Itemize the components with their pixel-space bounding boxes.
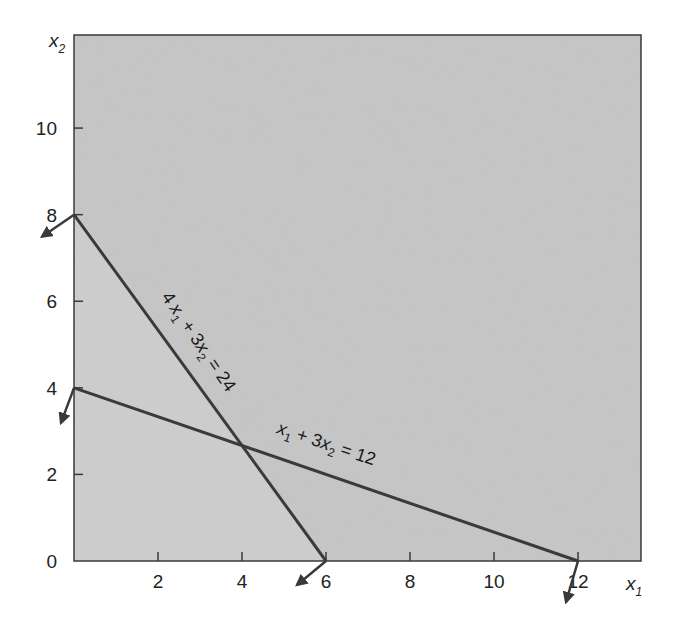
x-tick-label: 8 bbox=[405, 571, 416, 592]
y-tick-label: 4 bbox=[46, 378, 57, 399]
y-axis-tick-labels: 0246810 bbox=[36, 118, 58, 572]
direction-arrow-icon bbox=[61, 388, 74, 423]
y-axis-label: x2 bbox=[48, 30, 66, 56]
x-axis-tick-labels: 24681012 bbox=[153, 571, 589, 592]
y-tick-label: 2 bbox=[46, 464, 57, 485]
y-tick-label: 8 bbox=[46, 205, 57, 226]
x-tick-label: 6 bbox=[321, 571, 332, 592]
chart: 24681012 0246810 4x1 + 3x2 = 24 x1 + 3x2… bbox=[0, 0, 678, 620]
y-tick-label: 6 bbox=[46, 291, 57, 312]
y-tick-label: 0 bbox=[46, 551, 57, 572]
x-axis-label: x1 bbox=[625, 573, 642, 599]
y-tick-label: 10 bbox=[36, 118, 57, 139]
x-tick-label: 10 bbox=[483, 571, 504, 592]
x-tick-label: 4 bbox=[237, 571, 248, 592]
x-tick-label: 2 bbox=[153, 571, 164, 592]
